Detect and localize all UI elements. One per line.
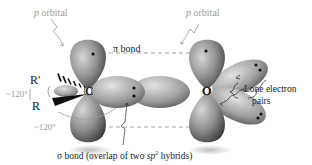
electron-dot [132, 94, 135, 97]
lone-pairs-label-line2: pairs [252, 97, 270, 107]
p-orbital-right-leader [181, 24, 199, 44]
oxygen-atom-label: O [202, 85, 211, 97]
carbon-atom-label: C [85, 85, 91, 97]
sigma-bond-label: σ bond (overlap of two sp2 hybrids) [57, 150, 192, 162]
angle-bottom-label: ~120° [34, 123, 56, 132]
p-orbital-left-leader [51, 19, 63, 46]
carbonyl-orbital-diagram: p orbital p orbital π bond R′ R ~120° ~1… [0, 0, 312, 165]
sigma-bond-leader [121, 103, 127, 145]
r-prime-label: R′ [30, 74, 41, 86]
lone-pairs-label-line1: Lone electron [244, 85, 297, 95]
electron-dot [260, 113, 263, 116]
r-label: R [32, 100, 40, 112]
p-orbital-right-label: p orbital [186, 8, 220, 18]
electron-dot [132, 86, 135, 89]
electron-dot [204, 49, 207, 52]
pi-bond-label: π bond [113, 44, 141, 54]
angle-top-label: ~120° [6, 90, 28, 99]
p-orbital-left-label: p orbital [34, 8, 68, 18]
carbon-sp2-r-lobe [54, 85, 78, 97]
electron-dot [91, 52, 94, 55]
sigma-bond-lobes [89, 76, 190, 108]
electron-dot [259, 69, 262, 72]
angle-arc-top [48, 86, 50, 97]
electron-dot [257, 117, 260, 120]
shadow [188, 145, 232, 155]
orbital-drawing [0, 0, 312, 165]
electron-dot [255, 64, 258, 67]
